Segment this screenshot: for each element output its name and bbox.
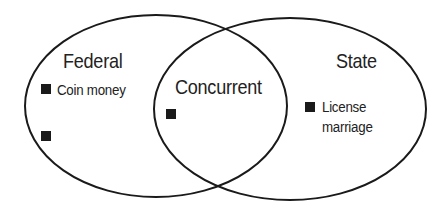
state-bullet-1 <box>305 102 315 112</box>
federal-ellipse <box>25 15 287 197</box>
state-ellipse <box>154 18 426 200</box>
federal-bullet-1 <box>41 84 51 94</box>
federal-item-coin-money: Coin money <box>57 80 126 99</box>
concurrent-title: Concurrent <box>175 76 262 98</box>
concurrent-bullet-1 <box>166 109 176 119</box>
federal-title: Federal <box>63 50 122 72</box>
venn-diagram <box>0 0 440 215</box>
state-item-license-line1: License <box>322 97 366 116</box>
federal-bullet-2 <box>41 131 51 141</box>
state-item-license-line2: marriage <box>322 117 373 136</box>
state-title: State <box>336 50 377 72</box>
